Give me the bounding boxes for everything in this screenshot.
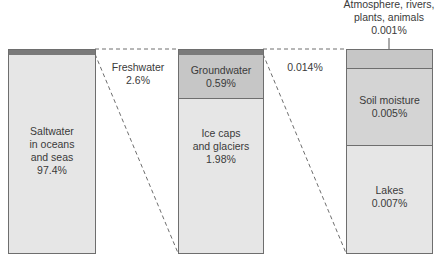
surface-value: 0.014% [280,61,330,74]
icecaps-segment: Ice caps and glaciers 1.98% [179,99,263,253]
freshwater-bar: Groundwater 0.59% Ice caps and glaciers … [178,49,264,254]
freshwater-callout: Freshwater 2.6% [106,61,170,87]
soil-moisture-label: Soil moisture [359,94,420,107]
saltwater-segment: Saltwater in oceans and seas 97.4% [9,55,95,253]
groundwater-value: 0.59% [206,77,236,90]
groundwater-segment: Groundwater 0.59% [179,55,263,99]
surface-water-bar: Soil moisture 0.005% Lakes 0.007% [346,49,433,254]
freshwater-label: Freshwater [106,61,170,74]
soil-moisture-segment: Soil moisture 0.005% [347,69,432,146]
icecaps-label: Ice caps and glaciers [193,127,250,153]
atmosphere-value: 0.001% [334,24,440,37]
lakes-value: 0.007% [372,197,408,210]
atmosphere-callout: Atmosphere, rivers, plants, animals 0.00… [334,0,440,37]
atmosphere-label: Atmosphere, rivers, plants, animals [334,0,440,24]
surface-callout: 0.014% [280,61,330,74]
soil-moisture-value: 0.005% [372,107,408,120]
connector-surface-bottom [263,54,346,253]
saltwater-value: 97.4% [37,164,67,177]
freshwater-value: 2.6% [106,74,170,87]
lakes-label: Lakes [375,184,403,197]
lakes-segment: Lakes 0.007% [347,146,432,253]
icecaps-value: 1.98% [206,153,236,166]
saltwater-label: Saltwater in oceans and seas [30,125,75,164]
groundwater-label: Groundwater [191,64,252,77]
atmosphere-segment [347,50,432,69]
total-water-bar: Saltwater in oceans and seas 97.4% [8,49,96,254]
